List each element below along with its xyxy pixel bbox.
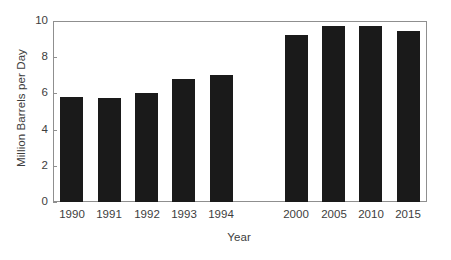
x-tick-label: 2015: [386, 208, 430, 220]
bar: [322, 26, 345, 202]
bar: [285, 35, 308, 202]
bar: [359, 26, 382, 202]
y-tick-mark: [53, 93, 57, 94]
y-tick-mark: [53, 130, 57, 131]
bar-chart: Million Barrels per Day 0246810 19901991…: [0, 0, 451, 260]
bar: [60, 97, 83, 202]
y-tick-label: 2: [14, 160, 48, 171]
y-axis-title: Million Barrels per Day: [12, 8, 30, 208]
bar: [172, 79, 195, 202]
y-tick-label: 0: [14, 196, 48, 207]
y-tick-label: 4: [14, 124, 48, 135]
bar: [98, 98, 121, 202]
bar: [210, 75, 233, 202]
y-tick-label: 10: [14, 15, 48, 26]
y-tick-mark: [53, 202, 57, 203]
bar: [135, 93, 158, 202]
y-tick-mark: [53, 166, 57, 167]
y-tick-label: 6: [14, 87, 48, 98]
bar: [397, 31, 420, 202]
x-tick-label: 1994: [199, 208, 243, 220]
y-tick-mark: [53, 57, 57, 58]
x-axis-title: Year: [50, 231, 428, 243]
y-tick-mark: [53, 21, 57, 22]
y-tick-label: 8: [14, 51, 48, 62]
